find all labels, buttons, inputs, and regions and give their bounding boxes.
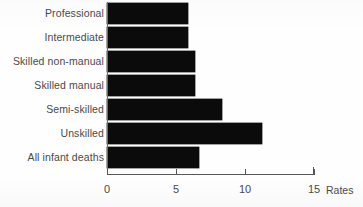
bar-professional — [107, 3, 188, 24]
bar-skilled-non-manual — [107, 51, 195, 72]
tick-mark-5 — [176, 169, 177, 175]
category-label-professional: Professional — [0, 7, 104, 19]
tick-label-0: 0 — [95, 183, 119, 196]
bar-skilled-manual — [107, 75, 195, 96]
tick-label-5: 5 — [164, 183, 188, 196]
tick-mark-0 — [107, 169, 108, 175]
bar-semi-skilled — [107, 99, 222, 120]
tick-mark-10 — [245, 169, 246, 175]
horizontal-bar-chart: Professional Intermediate Skilled non-ma… — [0, 0, 363, 207]
bar-all-infant-deaths — [107, 147, 199, 168]
category-label-unskilled: Unskilled — [0, 127, 104, 139]
category-axis-labels: Professional Intermediate Skilled non-ma… — [0, 0, 104, 174]
category-label-skilled-non-manual: Skilled non-manual — [0, 55, 104, 67]
plot-area — [107, 0, 363, 174]
bar-intermediate — [107, 27, 188, 48]
category-label-skilled-manual: Skilled manual — [0, 79, 104, 91]
tick-label-15: 15 — [302, 183, 326, 196]
tick-label-10: 10 — [233, 183, 257, 196]
category-label-semi-skilled: Semi-skilled — [0, 103, 104, 115]
bar-unskilled — [107, 123, 262, 144]
category-label-all-infant-deaths: All infant deaths — [0, 151, 104, 163]
value-axis-title: Rates — [326, 184, 353, 196]
category-label-intermediate: Intermediate — [0, 31, 104, 43]
tick-mark-15 — [314, 169, 315, 175]
value-axis-origin-line — [107, 2, 108, 175]
value-axis-line — [107, 174, 314, 175]
